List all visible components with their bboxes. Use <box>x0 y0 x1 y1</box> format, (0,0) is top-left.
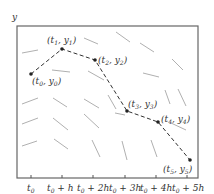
x-tick-label-0: t0 <box>27 183 35 194</box>
point-label-3: (t3, y3) <box>128 99 158 110</box>
point-1 <box>60 47 64 51</box>
point-4 <box>156 120 160 124</box>
x-tick-label-4: t0 + 4h <box>140 183 172 194</box>
slope-field <box>22 32 186 160</box>
y-axis-label: y <box>11 12 18 22</box>
point-label-1: (t1, y1) <box>47 35 77 46</box>
x-tick-label-5: t0 + 5h <box>172 183 204 194</box>
point-label-2: (t2, y2) <box>98 55 128 66</box>
point-2 <box>93 58 97 62</box>
x-tick-label-2: t0 + 2h <box>77 183 109 194</box>
x-tick-label-3: t0 + 3h <box>109 183 141 194</box>
point-label-5: (t5, y5) <box>163 164 193 175</box>
x-tick-label-1: t0 + h <box>47 183 74 194</box>
euler-method-diagram: y (t0, y0) (t1, <box>0 0 214 194</box>
point-3 <box>125 109 129 113</box>
plot-frame <box>17 26 198 178</box>
point-5 <box>188 158 192 162</box>
point-label-4: (t4, y4) <box>161 114 191 125</box>
point-label-0: (t0, y0) <box>32 76 62 87</box>
euler-path <box>31 49 190 160</box>
